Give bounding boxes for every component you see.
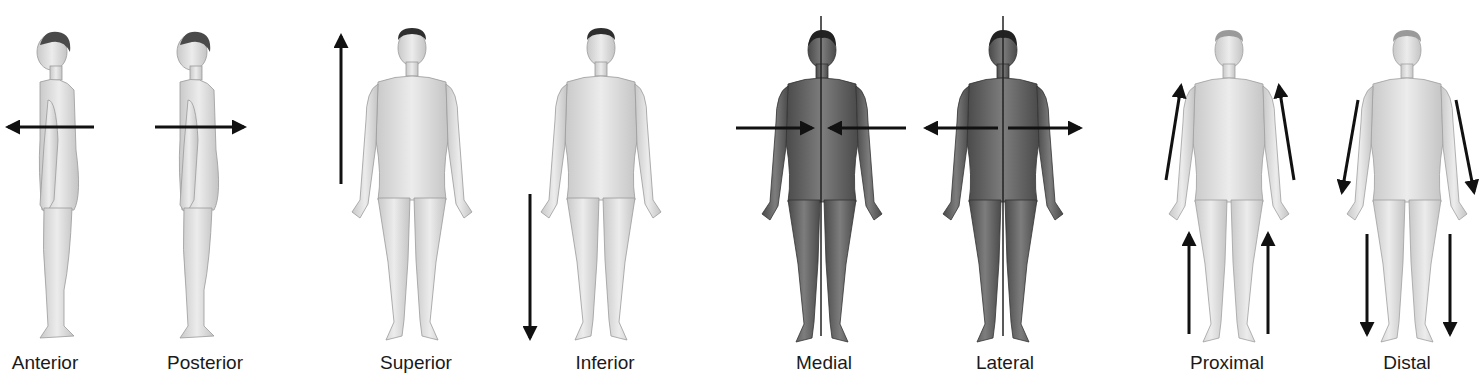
- directional-terms-diagram: [0, 0, 1484, 390]
- figure-superior: [341, 28, 472, 340]
- figure-distal: [1342, 30, 1474, 342]
- label-lateral: Lateral: [976, 352, 1034, 374]
- label-distal: Distal: [1383, 352, 1431, 374]
- figure-anterior: [8, 32, 94, 338]
- figure-posterior: [155, 32, 244, 338]
- label-anterior: Anterior: [12, 352, 79, 374]
- label-posterior: Posterior: [167, 352, 243, 374]
- label-superior: Superior: [380, 352, 452, 374]
- label-inferior: Inferior: [575, 352, 634, 374]
- figure-proximal: [1166, 30, 1294, 342]
- figure-inferior: [530, 28, 661, 340]
- arrow-proximal-icon: [1166, 86, 1181, 180]
- figure-lateral: [926, 16, 1080, 342]
- figure-medial: [736, 16, 906, 342]
- label-proximal: Proximal: [1190, 352, 1264, 374]
- label-medial: Medial: [796, 352, 852, 374]
- arrow-distal-icon: [1342, 100, 1358, 192]
